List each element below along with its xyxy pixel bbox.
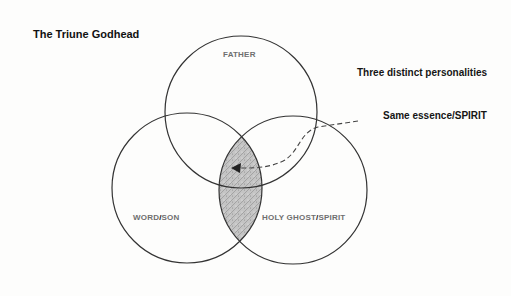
annotation-essence: Same essence/SPIRIT	[383, 110, 487, 121]
spirit-label-holy-ghost: HOLY GHOST	[262, 213, 316, 222]
son-label-son: SON	[162, 213, 180, 222]
spirit-label: HOLY GHOST/SPIRIT	[262, 213, 345, 222]
venn-diagram	[0, 0, 511, 296]
father-label: FATHER	[223, 50, 256, 59]
son-label-word: WORD	[133, 213, 159, 222]
shared-essence-region	[219, 116, 367, 264]
diagram-title: The Triune Godhead	[33, 28, 139, 40]
annotation-personalities: Three distinct personalities	[357, 67, 487, 78]
spirit-label-spirit: SPIRIT	[318, 213, 345, 222]
son-label: WORD/SON	[133, 213, 180, 222]
